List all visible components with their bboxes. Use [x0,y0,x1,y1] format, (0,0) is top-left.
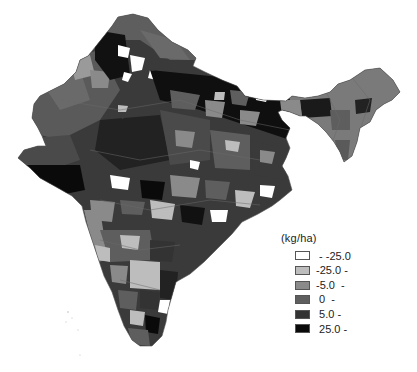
legend-label: - -25.0 [316,249,351,264]
legend-label: 25.0 - [316,322,347,337]
legend-swatch [295,310,310,319]
legend-swatch [295,324,310,333]
india-district-map [0,0,417,372]
legend-label: 5.0 - [316,307,341,322]
legend-label: -5.0 - [316,278,345,293]
legend-label: 0 - [316,292,335,307]
legend-item: -25.0 - [281,263,351,278]
legend-label: -25.0 - [316,263,348,278]
legend-swatch [295,295,310,304]
map-legend: (kg/ha) - -25.0 -25.0 - -5.0 - 0 - 5.0 -… [281,231,351,336]
legend-swatch [295,266,310,275]
legend-item: - -25.0 [281,249,351,264]
legend-item: 25.0 - [281,322,351,337]
district-fill-layer [0,0,417,372]
legend-item: 0 - [281,292,351,307]
legend-swatch [295,251,310,260]
legend-unit-label: (kg/ha) [281,231,351,246]
legend-item: 5.0 - [281,307,351,322]
legend-swatch [295,281,310,290]
lakshadweep-islands [65,311,80,355]
legend-item: -5.0 - [281,278,351,293]
